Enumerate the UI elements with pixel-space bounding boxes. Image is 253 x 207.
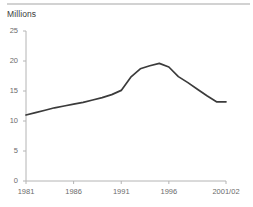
y-axis-tick-label: 0 bbox=[4, 176, 18, 185]
x-axis-tick-label: 1981 bbox=[4, 187, 48, 196]
chart-figure: Millions 0510152025 19811986199119962001… bbox=[0, 0, 253, 207]
axis-lines bbox=[26, 31, 226, 181]
y-axis-tick-label: 20 bbox=[4, 56, 18, 65]
plot-area bbox=[0, 0, 253, 207]
x-axis-tick-label: 1991 bbox=[99, 187, 143, 196]
data-series-line bbox=[26, 63, 226, 115]
y-axis-tick-label: 25 bbox=[4, 26, 18, 35]
x-axis-tick-label: 2001/02 bbox=[204, 187, 248, 196]
x-axis-tick-label: 1986 bbox=[52, 187, 96, 196]
y-axis-tick-label: 15 bbox=[4, 86, 18, 95]
y-axis-tick-label: 5 bbox=[4, 146, 18, 155]
y-axis-tick-label: 10 bbox=[4, 116, 18, 125]
x-axis-tick-label: 1996 bbox=[147, 187, 191, 196]
